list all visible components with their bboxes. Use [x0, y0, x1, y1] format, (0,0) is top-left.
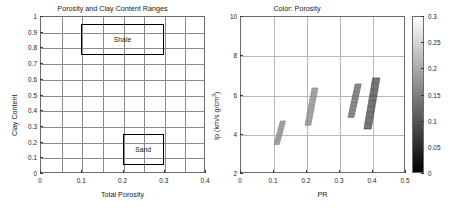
- xaxis-tick-mark: [273, 170, 274, 173]
- yaxis-tick-mark: [40, 95, 43, 96]
- yaxis-tick-mark: [240, 173, 243, 174]
- yaxis-tick-mark: [40, 142, 43, 143]
- yaxis-tick-label: 10: [223, 13, 237, 20]
- gridline-horizontal: [41, 127, 204, 128]
- yaxis-tick-mark: [240, 55, 243, 56]
- xaxis-tick-label: 0: [38, 177, 42, 184]
- facies-box-sand: Sand: [123, 134, 164, 165]
- yaxis-tick-mark: [40, 173, 43, 174]
- yaxis-tick-mark: [40, 16, 43, 17]
- gridline-vertical: [185, 17, 186, 172]
- gridline-horizontal: [41, 64, 204, 65]
- right-yaxis-label-tail: ): [212, 92, 221, 94]
- right-yaxis-label-exponent: 3: [211, 94, 217, 97]
- facies-box-shale: Shale: [81, 24, 164, 55]
- colorbar-tick-label: 0.1: [428, 117, 437, 124]
- data-cluster-1: [274, 121, 286, 145]
- xaxis-tick-label: 0.3: [159, 177, 168, 184]
- yaxis-tick-label: 0: [18, 170, 37, 177]
- colorbar-tick-mark: [421, 95, 424, 96]
- xaxis-tick-label: 0.2: [302, 177, 311, 184]
- gridline-horizontal: [41, 80, 204, 81]
- xaxis-tick-label: 0.3: [335, 177, 344, 184]
- colorbar-tick-label: 0.2: [428, 65, 437, 72]
- xaxis-tick-label: 0.2: [118, 177, 127, 184]
- colorbar-tick-label: 0.25: [428, 39, 440, 46]
- colorbar-tick-label: 0.05: [428, 143, 440, 150]
- xaxis-tick-label: 0.4: [368, 177, 377, 184]
- colorbar-tick-label: 0: [428, 170, 432, 177]
- gridline-horizontal: [41, 96, 204, 97]
- xaxis-tick-mark: [339, 170, 340, 173]
- colorbar-tick-label: 0.15: [428, 91, 440, 98]
- colorbar-tick-mark: [421, 147, 424, 148]
- gridline-vertical: [62, 17, 63, 172]
- gridline-vertical: [165, 17, 166, 172]
- yaxis-tick-mark: [40, 47, 43, 48]
- right-plot-axes: [240, 16, 405, 173]
- yaxis-tick-mark: [40, 157, 43, 158]
- yaxis-tick-label: 0.2: [18, 138, 37, 145]
- colorbar-tick-mark: [421, 42, 424, 43]
- yaxis-tick-label: 6: [223, 91, 237, 98]
- left-yaxis-label: Clay Content: [10, 94, 19, 136]
- yaxis-tick-mark: [240, 95, 243, 96]
- xaxis-tick-mark: [81, 170, 82, 173]
- yaxis-tick-mark: [40, 79, 43, 80]
- yaxis-tick-mark: [40, 32, 43, 33]
- xaxis-tick-label: 0: [238, 177, 242, 184]
- xaxis-tick-mark: [164, 170, 165, 173]
- yaxis-tick-mark: [40, 126, 43, 127]
- figure-canvas: Porosity and Clay Content Ranges 00.10.2…: [0, 0, 449, 208]
- yaxis-tick-label: 0.6: [18, 75, 37, 82]
- yaxis-tick-mark: [40, 63, 43, 64]
- right-plot-data-clusters: [241, 17, 404, 172]
- right-yaxis-label: Ip (km/s g/cm3): [211, 92, 221, 140]
- yaxis-tick-label: 0.5: [18, 91, 37, 98]
- data-cluster-3: [348, 84, 361, 117]
- yaxis-tick-label: 8: [223, 52, 237, 59]
- yaxis-tick-label: 0.4: [18, 107, 37, 114]
- left-xaxis-label: Total Porosity: [40, 190, 205, 199]
- xaxis-tick-mark: [372, 170, 373, 173]
- facies-label-shale: Shale: [114, 36, 131, 43]
- yaxis-tick-label: 0.3: [18, 122, 37, 129]
- xaxis-tick-mark: [123, 170, 124, 173]
- left-plot-panel: Porosity and Clay Content Ranges 00.10.2…: [0, 0, 225, 208]
- yaxis-tick-label: 4: [223, 130, 237, 137]
- data-cluster-4: [364, 78, 380, 129]
- yaxis-tick-mark: [240, 134, 243, 135]
- facies-label-sand: Sand: [135, 146, 151, 153]
- colorbar-tick-mark: [421, 68, 424, 69]
- xaxis-tick-label: 0.5: [401, 177, 410, 184]
- yaxis-tick-label: 0.8: [18, 44, 37, 51]
- xaxis-tick-label: 0.1: [269, 177, 278, 184]
- xaxis-tick-label: 0.4: [201, 177, 210, 184]
- xaxis-tick-mark: [205, 170, 206, 173]
- yaxis-tick-label: 0.1: [18, 154, 37, 161]
- right-plot-title: Color: Porosity: [185, 4, 409, 13]
- colorbar-tick-mark: [421, 16, 424, 17]
- gridline-horizontal: [41, 111, 204, 112]
- right-xaxis-label: PR: [240, 190, 405, 199]
- yaxis-tick-label: 0.9: [18, 28, 37, 35]
- colorbar-tick-mark: [421, 121, 424, 122]
- xaxis-tick-mark: [405, 170, 406, 173]
- yaxis-tick-label: 0.7: [18, 60, 37, 67]
- colorbar-tick-mark: [421, 173, 424, 174]
- yaxis-tick-label: 1: [18, 13, 37, 20]
- xaxis-tick-label: 0.1: [77, 177, 86, 184]
- colorbar-tick-label: 0.3: [428, 13, 437, 20]
- yaxis-tick-mark: [240, 16, 243, 17]
- xaxis-tick-mark: [306, 170, 307, 173]
- right-yaxis-label-main: Ip (km/s g/cm: [212, 97, 221, 140]
- yaxis-tick-mark: [40, 110, 43, 111]
- data-cluster-2: [305, 88, 318, 125]
- yaxis-tick-label: 2: [223, 170, 237, 177]
- right-plot-panel: Color: Porosity 00.10.20.30.40.5246810 P…: [225, 0, 449, 208]
